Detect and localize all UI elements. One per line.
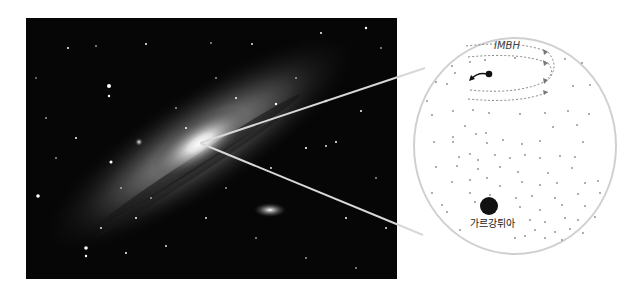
zoom-line-top	[200, 68, 425, 143]
gargantua-black-hole	[480, 197, 498, 215]
zoom-overlay	[0, 0, 642, 291]
imbh-label: IMBH	[494, 40, 520, 51]
zoom-circle	[414, 38, 616, 254]
gargantua-label: 가르강튀아	[470, 215, 515, 230]
zoom-line-bottom	[200, 143, 423, 235]
